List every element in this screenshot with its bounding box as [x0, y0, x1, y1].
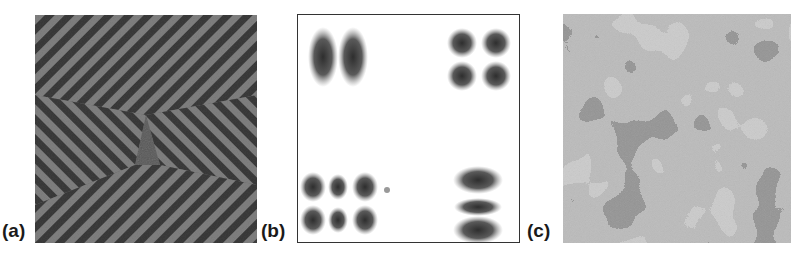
panel-c-domain-pattern	[563, 14, 791, 243]
panel-b-spot-pattern	[297, 14, 520, 243]
panel-a-stripe-pattern	[35, 15, 257, 243]
panel-b-label: (b)	[261, 220, 285, 242]
panel-a-label: (a)	[2, 220, 25, 242]
panel-c-label: (c)	[527, 220, 550, 242]
